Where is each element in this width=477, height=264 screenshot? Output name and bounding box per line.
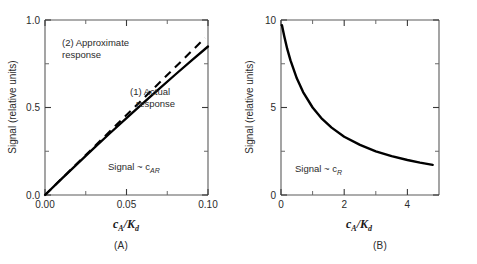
annotation-approximate-response: (2) Approximate [62,37,129,48]
panel-b-ytick-1: 5 [270,102,276,113]
panel-a-xtick-2: 0.10 [198,199,218,210]
panel-a-ytick-2: 1.0 [26,15,40,26]
panel-b: Signal (relative units) 0 5 10 0 2 4 cA/… [239,0,477,264]
panel-b-caption: (B) [261,240,477,251]
annotation-actual-response: (1) Actual [130,86,170,97]
panel-b-x-axis-title: cA/Kd [346,217,373,233]
panel-b-y-axis-title: Signal (relative units) [244,60,255,153]
panel-a-caption: (A) [2,240,240,251]
panel-a: Signal (relative units) 0.0 0.5 1.0 0.00… [0,0,238,264]
annotation-signal-relation-a: Signal ~ cAR [108,161,160,174]
panel-b-xtick-2: 4 [405,199,411,210]
panel-b-xtick-1: 2 [341,199,347,210]
panel-a-plot: Signal (relative units) 0.0 0.5 1.0 0.00… [0,0,238,240]
figure-container: Signal (relative units) 0.0 0.5 1.0 0.00… [0,0,477,264]
annotation-signal-relation-b: Signal ~ cR [295,163,342,176]
panel-a-ytick-1: 0.5 [26,102,40,113]
panel-a-y-axis-title: Signal (relative units) [7,60,18,153]
panel-a-xtick-1: 0.05 [117,199,137,210]
signal-decay-curve [282,25,433,165]
annotation-actual-response-line2: response [136,98,175,109]
panel-a-x-axis-title: cA/Kd [113,217,140,233]
panel-b-ytick-2: 10 [265,15,277,26]
panel-a-xtick-0: 0.00 [35,199,55,210]
panel-b-xtick-0: 0 [278,199,284,210]
actual-response-curve [45,47,208,196]
panel-b-ytick-0: 0 [270,190,276,201]
annotation-approximate-response-line2: response [62,49,101,60]
panel-b-plot: Signal (relative units) 0 5 10 0 2 4 cA/… [239,0,477,240]
